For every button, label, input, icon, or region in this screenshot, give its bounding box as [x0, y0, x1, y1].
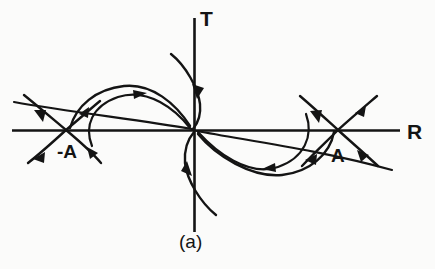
- upper-heteroclinic-arc-group: [70, 86, 190, 128]
- origin-outflow-lower-right: [197, 131, 392, 170]
- phase-portrait-figure: T R -A A (a): [0, 0, 435, 269]
- origin-inflow-above-group: [171, 54, 204, 129]
- origin-outflow-lower-right-group: [197, 131, 392, 170]
- arrow-right-saddle-in-nw: [310, 110, 322, 123]
- upper-heteroclinic-arc: [70, 86, 190, 128]
- phase-portrait-svg: T R -A A (a): [0, 0, 435, 269]
- left-saddle-label: -A: [57, 141, 77, 162]
- horizontal-axis-label-R: R: [407, 120, 422, 143]
- vertical-axis-label-T: T: [200, 7, 213, 30]
- figure-caption: (a): [179, 231, 202, 252]
- right-saddle-label: A: [331, 145, 345, 166]
- arrow-left-saddle-in-nw: [34, 110, 46, 122]
- arrow-right-saddle-out-ne: [355, 106, 366, 117]
